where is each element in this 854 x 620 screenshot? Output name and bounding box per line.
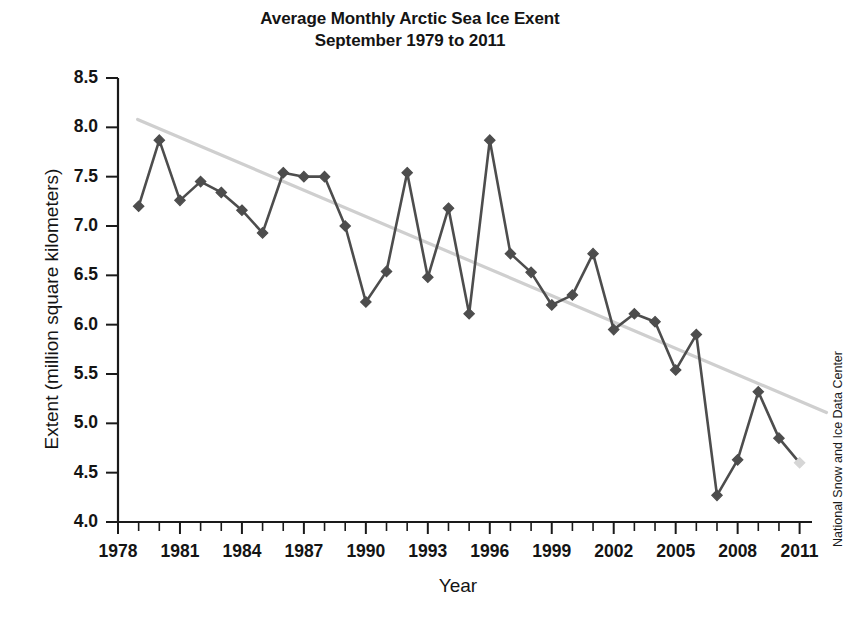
x-tick-label: 1987 xyxy=(274,541,334,562)
y-tick-label: 7.0 xyxy=(52,215,98,236)
x-tick-label: 1984 xyxy=(212,541,272,562)
y-tick-label: 8.0 xyxy=(52,116,98,137)
y-tick-label: 5.5 xyxy=(52,363,98,384)
x-axis-ticks xyxy=(118,522,800,534)
x-tick-label: 2008 xyxy=(708,541,768,562)
trend-line xyxy=(138,119,827,412)
x-tick-label: 2002 xyxy=(584,541,644,562)
y-tick-label: 6.0 xyxy=(52,314,98,335)
axis-lines xyxy=(118,78,812,522)
y-tick-label: 7.5 xyxy=(52,166,98,187)
data-point-markers xyxy=(133,135,804,501)
x-tick-label: 1996 xyxy=(460,541,520,562)
y-tick-label: 4.5 xyxy=(52,462,98,483)
plot-area xyxy=(0,0,854,620)
y-tick-label: 6.5 xyxy=(52,264,98,285)
x-tick-label: 1993 xyxy=(398,541,458,562)
x-tick-label: 1990 xyxy=(336,541,396,562)
y-tick-label: 4.0 xyxy=(52,511,98,532)
x-tick-label: 1999 xyxy=(522,541,582,562)
x-tick-label: 2005 xyxy=(646,541,706,562)
x-tick-label: 2011 xyxy=(770,541,830,562)
y-tick-label: 5.0 xyxy=(52,412,98,433)
y-axis-ticks xyxy=(106,78,118,522)
y-tick-label: 8.5 xyxy=(52,67,98,88)
chart-figure: Average Monthly Arctic Sea Ice Exent Sep… xyxy=(0,0,854,620)
x-tick-label: 1978 xyxy=(88,541,148,562)
x-tick-label: 1981 xyxy=(150,541,210,562)
